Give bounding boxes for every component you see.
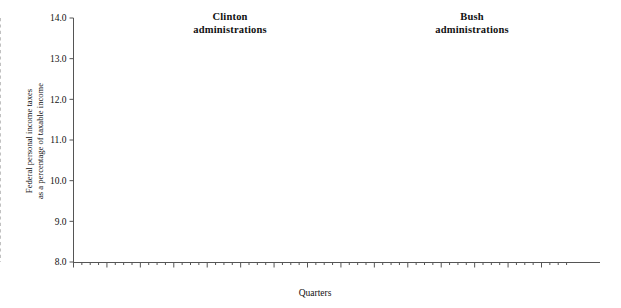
bush-label-line1: Bush	[460, 11, 484, 22]
y-axis-title: Federal personal income taxes as a perce…	[24, 26, 46, 256]
y-axis-ticks	[70, 18, 74, 262]
clinton-label-line2: administrations	[193, 24, 267, 35]
y-tick-label: 11.0	[50, 135, 67, 145]
y-axis-tick-labels: 14.013.012.011.010.09.08.0	[50, 13, 67, 267]
y-tick-label: 13.0	[50, 54, 67, 64]
y-tick-label: 12.0	[50, 95, 67, 105]
line-chart-plot: 14.013.012.011.010.09.08.0	[0, 0, 621, 308]
y-tick-label: 8.0	[55, 257, 67, 267]
y-tick-label: 14.0	[50, 13, 67, 23]
axes: 14.013.012.011.010.09.08.0	[50, 13, 600, 267]
y-tick-label: 9.0	[55, 217, 67, 227]
bush-administrations-label: Bush administrations	[392, 10, 552, 36]
clinton-label-line1: Clinton	[212, 11, 247, 22]
x-axis-title: Quarters	[260, 288, 370, 298]
y-axis-title-line1: Federal personal income taxes	[24, 26, 35, 256]
y-axis-title-line2: as a percentage of taxable income	[35, 26, 46, 256]
y-tick-label: 10.0	[50, 176, 67, 186]
clinton-administrations-label: Clinton administrations	[150, 10, 310, 36]
chart-figure: 14.013.012.011.010.09.08.0 Clinton admin…	[0, 0, 621, 308]
bush-label-line2: administrations	[435, 24, 509, 35]
